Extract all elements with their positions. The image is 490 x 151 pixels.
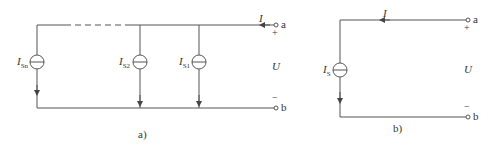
terminal-a-label: a: [281, 18, 286, 30]
label-is: IS: [323, 63, 331, 78]
caption-a: a): [138, 128, 147, 140]
label-current-b: I: [383, 7, 387, 19]
label-is2: IS2: [119, 55, 130, 70]
voltage-label-b: U: [464, 63, 472, 75]
label-isn: ISn: [17, 55, 28, 70]
minus-sign-b: −: [464, 101, 470, 112]
minus-sign-a: −: [272, 92, 278, 103]
terminal-b-label-b: b: [473, 110, 479, 122]
voltage-label-a: U: [272, 60, 280, 72]
caption-b: b): [393, 122, 402, 134]
plus-sign-a: +: [272, 27, 278, 38]
label-is1: IS1: [179, 55, 190, 70]
terminal-a-label-b: a: [473, 13, 478, 25]
label-current-a: I: [259, 12, 263, 24]
plus-sign-b: +: [464, 22, 470, 33]
terminal-b-label: b: [281, 101, 287, 113]
